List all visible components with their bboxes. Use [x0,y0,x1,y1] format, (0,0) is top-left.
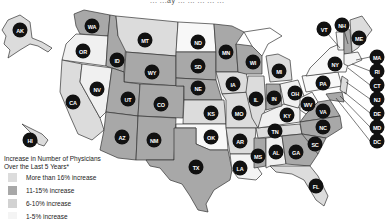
state-badge-ne: NE [191,81,206,96]
state-badge-nh: NH [335,18,350,33]
state-badge-wv: WV [301,97,316,112]
state-badge-mo: MO [232,106,247,121]
state-badge-mt: MT [138,33,153,48]
state-badge-ca: CA [66,95,81,110]
state-badge-mn: MN [219,45,234,60]
legend-swatch-1-5 [8,212,17,219]
state-badge-ia: IA [226,77,241,92]
state-badge-sc: SC [308,137,323,152]
state-badge-nm: NM [147,133,162,148]
state-badge-tn: TN [268,124,283,139]
state-badge-wa: WA [85,19,100,34]
state-nj [340,76,348,94]
state-badge-va: VA [316,104,331,119]
state-badge-ks: KS [204,106,219,121]
state-badge-ny: NY [328,57,343,72]
legend-label: 6-10% increase [26,200,71,207]
state-badge-ak: AK [13,23,28,38]
state-badge-ut: UT [121,92,136,107]
state-badge-de: DE [370,106,385,121]
state-badge-me: ME [352,31,367,46]
state-badge-mi: MI [272,64,287,79]
state-badge-pa: PA [316,76,331,91]
state-badge-nd: ND [191,35,206,50]
state-badge-ar: AR [233,134,248,149]
state-badge-ok: OK [204,130,219,145]
state-badge-id: ID [110,53,125,68]
state-badge-sd: SD [191,59,206,74]
state-badge-ky: KY [280,108,295,123]
state-badge-nv: NV [90,82,105,97]
legend-item: 11-15% increase [8,184,134,197]
legend-swatch-6-10 [8,199,17,208]
state-ak [2,15,52,58]
state-badge-tx: TX [189,160,204,175]
state-badge-nj: NJ [370,92,385,107]
state-badge-nc: NC [316,120,331,135]
legend-title-line2: Over the Last 5 Years* [4,163,134,171]
state-badge-hi: HI [23,133,38,148]
state-badge-ct: CT [370,78,385,93]
state-badge-dc: DC [370,134,385,149]
legend: Increase in Number of Physicians Over th… [4,155,134,219]
legend-item: More than 16% increase [8,171,134,184]
state-badge-wi: WI [246,55,261,70]
legend-item: 6-10% increase [8,197,134,210]
state-badge-la: LA [233,161,248,176]
state-badge-oh: OH [288,86,303,101]
legend-swatch-more16 [8,173,17,182]
state-badge-ri: RI [370,64,385,79]
legend-title-line1: Increase in Number of Physicians [4,155,134,163]
state-badge-fl: FL [309,179,324,194]
state-badge-co: CO [154,97,169,112]
legend-label: 1-5% increase [26,213,68,219]
state-badge-ma: MA [370,50,385,65]
legend-item: 1-5% increase [8,210,134,219]
state-badge-vt: VT [317,22,332,37]
legend-label: 11-15% increase [26,187,74,194]
state-badge-in: IN [267,91,282,106]
state-badge-ga: GA [289,145,304,160]
state-badge-or: OR [76,44,91,59]
state-badge-il: IL [249,92,264,107]
state-badge-wy: WY [145,65,160,80]
state-badge-al: AL [269,145,284,160]
legend-label: More than 16% increase [26,174,96,181]
state-badge-md: MD [370,120,385,135]
state-badge-az: AZ [115,130,130,145]
legend-swatch-11-15 [8,186,17,195]
state-badge-ms: MS [251,149,266,164]
